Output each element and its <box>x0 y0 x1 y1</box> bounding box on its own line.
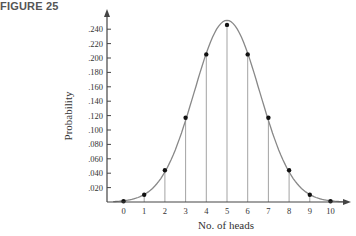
x-tick-label: 9 <box>308 206 312 216</box>
x-tick-label: 1 <box>142 206 146 216</box>
binomial-probability-chart: .020.040.060.080.100.120.140.160.180.200… <box>0 0 356 236</box>
x-axis-arrow-icon <box>343 199 351 205</box>
y-tick-label: .120 <box>88 111 103 121</box>
x-tick-label: 0 <box>121 206 125 216</box>
y-tick-label: .220 <box>88 39 103 49</box>
y-axis-title: Probability <box>62 91 74 140</box>
y-tick-label: .100 <box>88 125 103 135</box>
x-axis-ticks: 012345678910 <box>121 206 334 216</box>
y-tick-label: .240 <box>88 24 103 34</box>
data-point <box>163 168 167 172</box>
data-point <box>287 168 291 172</box>
drop-lines <box>144 25 310 202</box>
probability-curve <box>113 20 343 201</box>
x-tick-label: 2 <box>163 206 167 216</box>
data-point <box>246 52 250 56</box>
x-axis-title: No. of heads <box>198 219 254 231</box>
data-point <box>266 116 270 120</box>
x-tick-label: 5 <box>225 206 229 216</box>
x-tick-label: 3 <box>183 206 187 216</box>
y-tick-label: .180 <box>88 67 103 77</box>
x-tick-label: 6 <box>246 206 250 216</box>
y-tick-label: .080 <box>88 139 103 149</box>
y-tick-label: .140 <box>88 96 103 106</box>
data-point <box>183 116 187 120</box>
x-tick-label: 4 <box>204 206 209 216</box>
y-tick-label: .020 <box>88 183 103 193</box>
x-tick-label: 10 <box>326 206 335 216</box>
y-tick-label: .060 <box>88 154 103 164</box>
y-axis-arrow-icon <box>104 9 110 17</box>
data-point <box>328 199 332 203</box>
x-tick-label: 7 <box>266 206 270 216</box>
y-tick-label: .160 <box>88 82 103 92</box>
x-tick-label: 8 <box>287 206 291 216</box>
data-point <box>225 23 229 27</box>
y-tick-label: .200 <box>88 53 103 63</box>
y-tick-label: .040 <box>88 168 103 178</box>
data-point <box>142 193 146 197</box>
data-point <box>308 193 312 197</box>
data-point <box>204 52 208 56</box>
data-point <box>121 199 125 203</box>
